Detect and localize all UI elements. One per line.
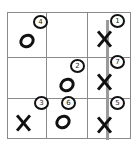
move-number-badge: 2 (70, 59, 85, 73)
o-mark (56, 75, 77, 96)
move-number-badge: 7 (110, 55, 125, 69)
move-number-badge: 1 (110, 14, 125, 28)
cell-r3c1[interactable]: 3 (7, 99, 46, 139)
cell-r3c3[interactable]: 5 (88, 99, 131, 139)
move-number-badge: 5 (110, 96, 125, 110)
x-mark (95, 116, 113, 134)
cell-r1c3[interactable]: 1 (88, 12, 131, 57)
o-mark (52, 112, 73, 133)
cell-r2c1[interactable] (7, 58, 46, 98)
cell-r2c3[interactable]: 7 (88, 58, 131, 98)
move-number-badge: 6 (61, 96, 76, 110)
move-number-badge: 4 (33, 15, 48, 29)
cell-r2c2[interactable]: 2 (47, 58, 87, 98)
x-mark (95, 73, 113, 91)
x-mark (14, 114, 32, 132)
x-mark (95, 30, 113, 48)
o-mark (16, 31, 37, 52)
cell-r3c2[interactable]: 6 (47, 99, 87, 139)
cell-r1c1[interactable]: 4 (7, 12, 46, 57)
cell-r1c2[interactable] (47, 12, 87, 57)
